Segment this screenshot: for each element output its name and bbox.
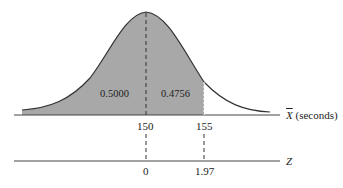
x-tick-155: 155 (196, 121, 213, 132)
x-tick-150: 150 (137, 121, 154, 132)
z-tick-197: 1.97 (195, 166, 214, 177)
x-axis-unit: (seconds) (295, 109, 337, 121)
z-axis-label: Z (286, 156, 292, 167)
z-tick-0: 0 (143, 166, 149, 177)
x-bar-symbol: X (286, 109, 293, 121)
area-label-right: 0.4756 (161, 89, 190, 100)
x-axis-label: X (seconds) (286, 110, 338, 121)
area-label-left: 0.5000 (100, 89, 129, 100)
shaded-area (22, 12, 204, 115)
